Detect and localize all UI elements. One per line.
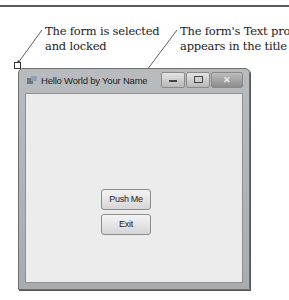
exit-button[interactable]: Exit bbox=[101, 214, 151, 235]
app-form-icon bbox=[27, 76, 37, 85]
leader-line-left bbox=[18, 30, 42, 63]
maximize-button[interactable] bbox=[186, 72, 210, 88]
minimize-button[interactable] bbox=[161, 72, 185, 88]
minimize-icon bbox=[169, 80, 177, 82]
window-title: Hello World by Your Name bbox=[41, 75, 147, 86]
title-bar[interactable]: Hello World by Your Name ✕ bbox=[19, 69, 249, 93]
window-controls: ✕ bbox=[160, 72, 243, 87]
close-button[interactable]: ✕ bbox=[211, 72, 243, 88]
close-icon: ✕ bbox=[212, 73, 242, 87]
maximize-icon bbox=[194, 76, 203, 83]
push-me-button[interactable]: Push Me bbox=[101, 189, 151, 210]
form-client-area: Push Me Exit bbox=[25, 93, 243, 283]
form-window[interactable]: Hello World by Your Name ✕ Push Me Exit bbox=[18, 68, 250, 290]
